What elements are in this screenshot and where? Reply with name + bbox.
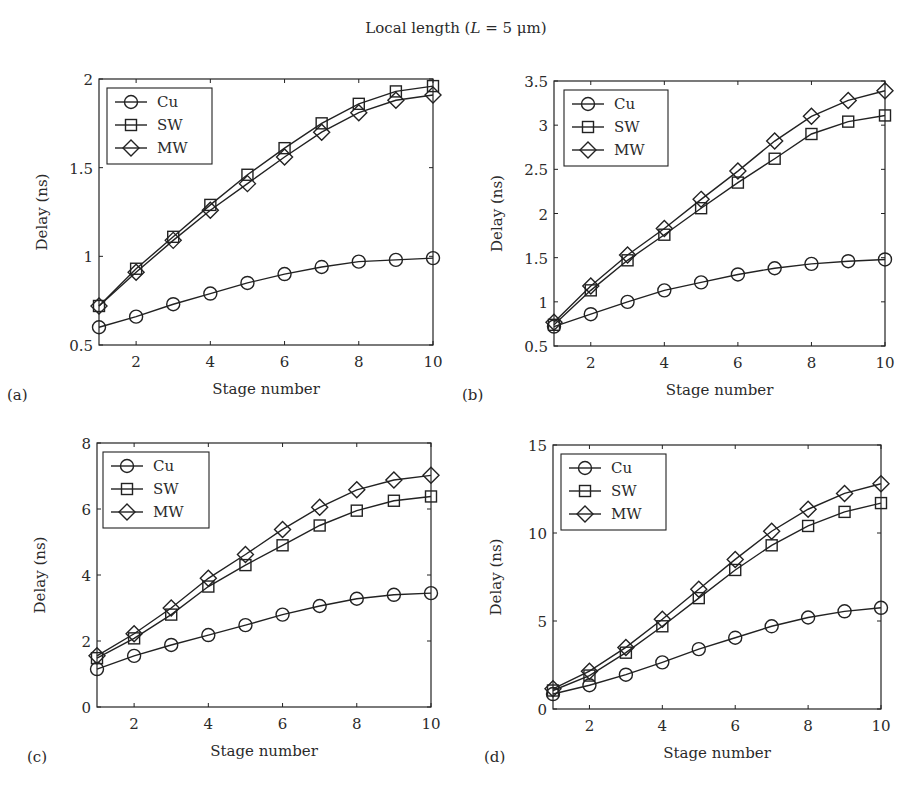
title-rest: = 5 μm) — [480, 19, 546, 37]
y-tick-label: 6 — [81, 501, 91, 519]
y-axis-label: Delay (ns) — [33, 174, 51, 251]
x-tick-label: 4 — [204, 715, 214, 733]
x-tick-label: 6 — [280, 353, 290, 371]
chart-panel-c: 24681002468Stage numberDelay (ns)(c)CuSW… — [27, 435, 441, 766]
y-tick-label: 3.5 — [524, 73, 548, 91]
series-cu — [548, 253, 892, 333]
y-tick-label: 10 — [528, 525, 547, 543]
y-tick-label: 5 — [537, 613, 547, 631]
figure: Local length (L = 5 μm) 2468100.511.52St… — [0, 0, 913, 790]
x-axis-label: Stage number — [210, 742, 319, 760]
x-tick-label: 2 — [586, 354, 596, 372]
y-tick-label: 1.5 — [524, 250, 548, 268]
series-line-cu — [554, 259, 885, 326]
panel-label: (c) — [27, 748, 47, 766]
x-tick-label: 6 — [733, 354, 743, 372]
y-tick-label: 4 — [81, 567, 91, 585]
x-tick-label: 4 — [660, 354, 670, 372]
legend-label: Cu — [153, 457, 174, 475]
legend: CuSWMW — [107, 88, 212, 164]
x-axis-label: Stage number — [663, 744, 772, 762]
y-axis-label: Delay (ns) — [488, 175, 506, 252]
x-tick-label: 2 — [585, 717, 595, 735]
x-tick-label: 8 — [803, 717, 813, 735]
chart-panel-b: 2468100.511.522.533.5Stage numberDelay (… — [462, 73, 895, 404]
x-tick-label: 2 — [131, 353, 141, 371]
chart-panel-a: 2468100.511.52Stage numberDelay (ns)(a)C… — [7, 71, 443, 404]
y-tick-label: 3 — [538, 117, 548, 135]
y-tick-label: 1.5 — [69, 160, 93, 178]
legend-label: SW — [611, 482, 637, 500]
legend-label: Cu — [614, 95, 635, 113]
series-cu — [91, 587, 438, 676]
y-tick-label: 1 — [83, 248, 93, 266]
y-tick-label: 15 — [528, 437, 547, 455]
panels: 2468100.511.52Stage numberDelay (ns)(a)C… — [7, 71, 895, 766]
y-tick-label: 2 — [83, 71, 93, 89]
title-prefix: Local length ( — [365, 19, 470, 37]
y-tick-label: 8 — [81, 435, 91, 453]
chart-panel-d: 246810051015Stage numberDelay (ns)(d)CuS… — [484, 437, 891, 766]
series-cu — [93, 252, 440, 334]
title-variable: L — [469, 19, 480, 37]
y-tick-label: 0 — [537, 701, 547, 719]
x-axis-label: Stage number — [212, 380, 321, 398]
x-tick-label: 8 — [354, 353, 364, 371]
x-tick-label: 10 — [423, 353, 442, 371]
y-tick-label: 0 — [81, 699, 91, 717]
legend-label: SW — [153, 480, 179, 498]
x-tick-label: 10 — [421, 715, 440, 733]
legend: CuSWMW — [561, 454, 666, 530]
x-tick-label: 10 — [875, 354, 894, 372]
legend-label: MW — [153, 503, 184, 521]
series-line-cu — [97, 593, 431, 669]
y-tick-label: 0.5 — [69, 337, 93, 355]
x-tick-label: 2 — [129, 715, 139, 733]
y-tick-label: 2.5 — [524, 161, 548, 179]
legend-label: MW — [614, 141, 645, 159]
x-tick-label: 6 — [730, 717, 740, 735]
figure-title: Local length (L = 5 μm) — [365, 19, 546, 37]
x-tick-label: 6 — [278, 715, 288, 733]
x-axis-label: Stage number — [666, 381, 775, 399]
series-line-cu — [99, 258, 433, 327]
panel-label: (b) — [462, 386, 483, 404]
x-tick-label: 10 — [871, 717, 890, 735]
x-tick-label: 4 — [658, 717, 668, 735]
y-tick-label: 1 — [538, 294, 548, 312]
x-tick-label: 8 — [352, 715, 362, 733]
series-line-cu — [553, 608, 881, 694]
panel-label: (d) — [484, 748, 505, 766]
y-tick-label: 2 — [81, 633, 91, 651]
x-tick-label: 4 — [206, 353, 216, 371]
legend-label: Cu — [157, 93, 178, 111]
legend: CuSWMW — [103, 452, 209, 528]
legend-label: SW — [614, 118, 640, 136]
legend-label: MW — [611, 505, 642, 523]
x-tick-label: 8 — [807, 354, 817, 372]
y-tick-label: 2 — [538, 206, 548, 224]
series-cu — [547, 601, 888, 700]
legend-label: MW — [157, 139, 188, 157]
y-axis-label: Delay (ns) — [487, 539, 505, 616]
panel-label: (a) — [7, 386, 28, 404]
y-axis-label: Delay (ns) — [31, 537, 49, 614]
legend-label: Cu — [611, 459, 632, 477]
legend-label: SW — [157, 116, 183, 134]
legend: CuSWMW — [564, 90, 668, 166]
y-tick-label: 0.5 — [524, 338, 548, 356]
